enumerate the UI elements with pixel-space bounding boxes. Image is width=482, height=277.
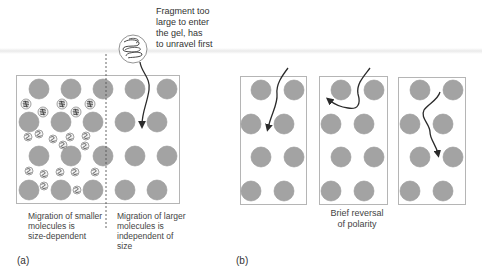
panel-b-gel-box-1 — [241, 68, 307, 205]
fragment-caption: Fragment too large to enter the gel, has… — [156, 6, 213, 50]
small-molecule-caption: Migration of smaller molecules is size-d… — [28, 211, 102, 241]
panel-b-label: (b) — [236, 255, 248, 266]
panel-b-gel-box-2 — [320, 68, 388, 205]
polarity-reversal-caption: Brief reversal of polarity — [327, 208, 387, 230]
large-fragment-icon — [119, 35, 147, 63]
panel-a-label: (a) — [17, 255, 29, 266]
panel-b-gel-box-3 — [399, 78, 466, 205]
large-molecule-caption: Migration of larger molecules is indepen… — [117, 211, 186, 251]
